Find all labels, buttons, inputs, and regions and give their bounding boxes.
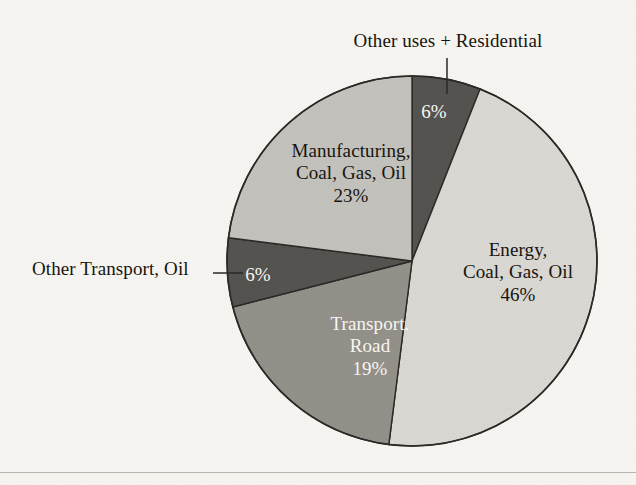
label-other-transport-oil-line1: Other Transport, Oil bbox=[32, 258, 234, 280]
label-other-transport-oil: Other Transport, Oil bbox=[32, 258, 234, 280]
value-transport-road: 19% bbox=[310, 358, 430, 380]
label-transport-road: Transport. Road 19% bbox=[310, 313, 430, 380]
value-other-uses-residential: 6% bbox=[408, 101, 460, 123]
value-energy: 46% bbox=[434, 284, 602, 306]
label-manufacturing-line1: Manufacturing, bbox=[258, 140, 444, 162]
label-energy-line1: Energy, bbox=[434, 239, 602, 261]
pie-chart-figure: Other uses + Residential 6% Manufacturin… bbox=[0, 0, 636, 485]
label-transport-road-line2: Road bbox=[310, 335, 430, 357]
label-transport-road-line1: Transport. bbox=[310, 313, 430, 335]
label-other-uses-residential: Other uses + Residential bbox=[334, 30, 562, 52]
label-manufacturing-line2: Coal, Gas, Oil bbox=[258, 162, 444, 184]
bottom-border-rule bbox=[0, 472, 636, 473]
label-energy-line2: Coal, Gas, Oil bbox=[434, 261, 602, 283]
value-manufacturing: 23% bbox=[258, 185, 444, 207]
label-other-uses-residential-line1: Other uses + Residential bbox=[334, 30, 562, 52]
value-other-transport-oil: 6% bbox=[232, 264, 284, 286]
label-energy: Energy, Coal, Gas, Oil 46% bbox=[434, 239, 602, 306]
label-manufacturing: Manufacturing, Coal, Gas, Oil 23% bbox=[258, 140, 444, 207]
value-other-uses-residential-text: 6% bbox=[408, 101, 460, 123]
value-other-transport-oil-text: 6% bbox=[232, 264, 284, 286]
